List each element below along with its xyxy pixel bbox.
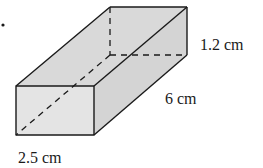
front-face [16,86,94,135]
bullet-dot [1,23,4,26]
length-label: 6 cm [165,90,197,107]
height-label: 1.2 cm [200,36,244,53]
prism-diagram: 1.2 cm 6 cm 2.5 cm [0,0,263,168]
width-label: 2.5 cm [18,149,62,166]
